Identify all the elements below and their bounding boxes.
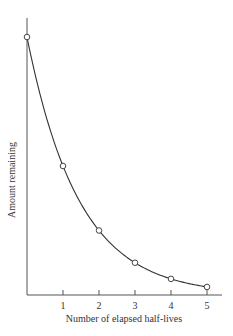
data-point-marker (60, 163, 66, 169)
data-point-marker (96, 228, 102, 234)
data-point-marker (204, 284, 210, 290)
x-axis-title: Number of elapsed half-lives (66, 313, 182, 324)
x-tick-label: 3 (133, 300, 138, 311)
decay-chart: 12345 Number of elapsed half-lives Amoun… (0, 0, 233, 336)
data-point-marker (24, 34, 30, 40)
data-point-marker (132, 260, 138, 266)
data-point-marker (168, 276, 174, 282)
decay-curve (27, 37, 207, 287)
data-markers (24, 34, 210, 290)
x-ticks: 12345 (61, 290, 210, 311)
x-tick-label: 1 (61, 300, 66, 311)
y-axis-title: Amount remaining (6, 142, 17, 218)
x-tick-label: 2 (97, 300, 102, 311)
axes (27, 18, 222, 295)
x-tick-label: 5 (205, 300, 210, 311)
x-tick-label: 4 (169, 300, 174, 311)
